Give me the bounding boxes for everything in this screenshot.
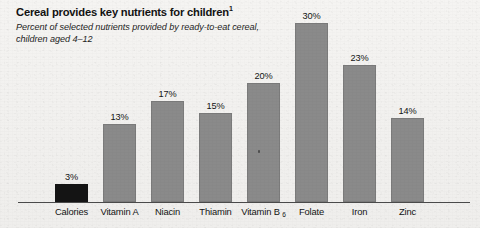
bar-folate [295, 23, 328, 202]
bar-value-label: 13% [103, 112, 136, 122]
bar-niacin [151, 101, 184, 202]
bar-iron [343, 65, 376, 202]
bar-value-label: 20% [247, 71, 280, 81]
bar-value-label: 17% [151, 89, 184, 99]
bar-value-label: 15% [199, 101, 232, 111]
bar-value-label: 23% [343, 53, 376, 63]
x-axis-line [18, 202, 470, 203]
x-tick-label-zinc: Zinc [368, 206, 448, 217]
bar-calories [55, 184, 88, 202]
bar-value-label: 3% [55, 172, 88, 182]
bar-vitamin-a [103, 124, 136, 202]
bar-zinc [391, 118, 424, 202]
bar-thiamin [199, 113, 232, 203]
bar-value-label: 30% [295, 11, 328, 21]
chart-figure: Cereal provides key nutrients for childr… [0, 0, 480, 228]
scan-artifact-speck [258, 150, 260, 153]
bar-value-label: 14% [391, 106, 424, 116]
bar-vitamin-b6 [247, 83, 280, 202]
chart-plot-area: 3%13%17%15%20%30%23%14% CaloriesVitamin … [0, 0, 480, 228]
